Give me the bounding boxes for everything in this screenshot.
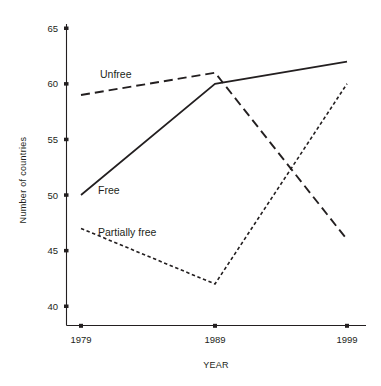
y-tick-50 (64, 193, 69, 197)
series-label-partially-free: Partially free (98, 226, 157, 238)
line-chart: 65 60 55 50 45 40 1979 1989 1999 YEAR Nu… (0, 0, 381, 386)
x-tick-1989 (213, 324, 217, 328)
series-label-unfree: Unfree (100, 68, 132, 80)
x-axis-title: YEAR (203, 360, 229, 370)
y-tick-55 (64, 138, 69, 142)
y-tick-45 (64, 249, 69, 253)
y-tick-40 (64, 305, 69, 309)
y-tick-label-65: 65 (47, 23, 58, 34)
x-tick-1999 (345, 324, 349, 328)
y-tick-label-45: 45 (47, 245, 58, 256)
series-line-partially-free (81, 84, 347, 284)
y-axis-title: Number of countries (18, 136, 28, 223)
y-tick-65 (64, 27, 69, 31)
y-tick-label-60: 60 (47, 78, 58, 89)
series-line-free (81, 62, 347, 195)
y-tick-label-50: 50 (47, 190, 58, 201)
x-tick-1979 (79, 324, 83, 328)
x-tick-label-1979: 1979 (70, 334, 91, 345)
series-label-free: Free (98, 184, 120, 196)
series-line-unfree (81, 73, 347, 240)
x-tick-label-1999: 1999 (336, 334, 357, 345)
x-tick-label-1989: 1989 (204, 334, 225, 345)
chart-canvas: 65 60 55 50 45 40 1979 1989 1999 YEAR Nu… (0, 0, 381, 386)
y-tick-label-55: 55 (47, 134, 58, 145)
y-tick-label-40: 40 (47, 301, 58, 312)
y-tick-60 (64, 82, 69, 86)
